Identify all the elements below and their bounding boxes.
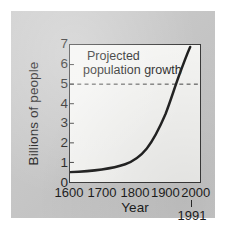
annotation-line-2: population growth xyxy=(83,64,201,78)
y-tick-label: 6 xyxy=(60,57,68,71)
y-tick-label: 5 xyxy=(60,77,68,91)
y-tick-label: 1 xyxy=(60,156,68,170)
y-axis-title: Billions of people xyxy=(25,44,43,183)
x-tick-label: 1800 xyxy=(121,185,150,201)
year-1991-leader-line xyxy=(191,200,192,207)
year-1991-annotation: 1991 xyxy=(169,200,215,230)
projected-growth-annotation: Projected population growth xyxy=(83,50,201,77)
x-tick-label: 1700 xyxy=(88,185,117,201)
x-tick-label: 1900 xyxy=(151,185,180,201)
figure-page: Billions of people 7 6 5 4 3 2 1 0 xyxy=(0,0,228,236)
y-tick-marks xyxy=(70,65,74,163)
x-tick-label: 1600 xyxy=(55,185,84,201)
y-tick-label: 7 xyxy=(60,37,68,51)
x-axis-tick-labels: 1600 1700 1800 1900 2000 xyxy=(69,185,201,201)
y-tick-label: 4 xyxy=(60,97,68,111)
year-1991-label: 1991 xyxy=(169,208,215,223)
y-tick-label: 3 xyxy=(60,117,68,131)
x-tick-label: 2000 xyxy=(181,185,210,201)
y-axis-tick-labels: 7 6 5 4 3 2 1 0 xyxy=(55,44,68,183)
figure-panel: Billions of people 7 6 5 4 3 2 1 0 xyxy=(11,11,215,218)
y-tick-label: 2 xyxy=(60,137,68,151)
annotation-line-1: Projected xyxy=(87,50,201,64)
